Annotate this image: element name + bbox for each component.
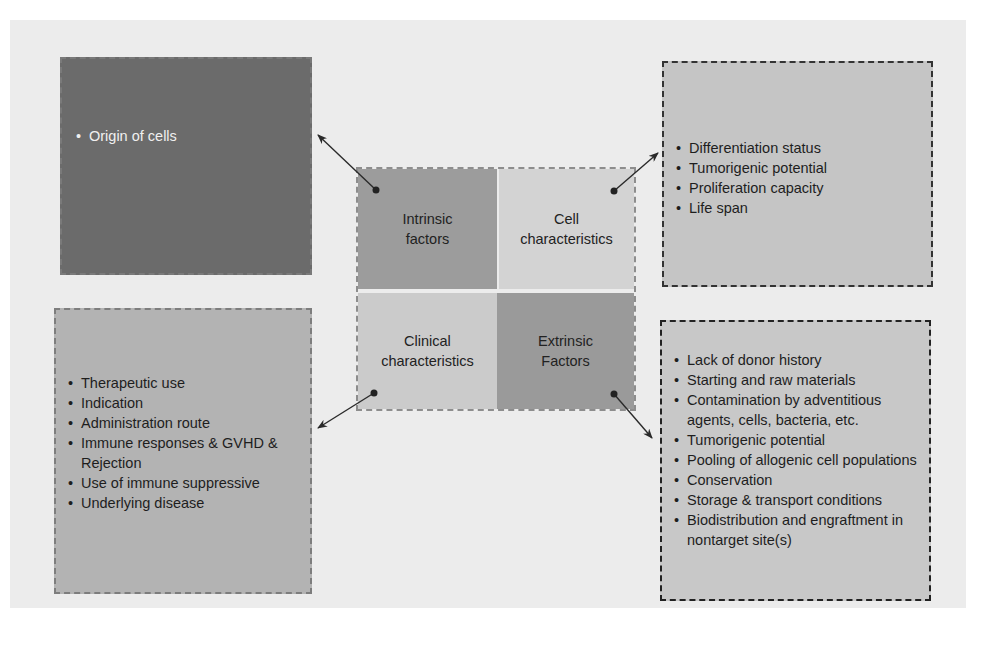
- list-item: Life span: [676, 198, 827, 218]
- list-item: Use of immune suppressive: [68, 473, 300, 493]
- clinical-characteristics-list: Therapeutic use Indication Administratio…: [68, 373, 300, 513]
- extrinsic-factors-detail-box: Lack of donor history Starting and raw m…: [660, 320, 931, 601]
- list-item: Contamination by adventitious agents, ce…: [674, 390, 919, 430]
- cell-characteristics-detail-box: Differentiation status Tumorigenic poten…: [662, 61, 933, 287]
- list-item: Conservation: [674, 470, 919, 490]
- list-item: Administration route: [68, 413, 300, 433]
- quadrant-label: Extrinsic: [538, 333, 593, 349]
- list-item: Immune responses & GVHD & Rejection: [68, 433, 300, 473]
- list-item: Storage & transport conditions: [674, 490, 919, 510]
- list-item: Differentiation status: [676, 138, 827, 158]
- extrinsic-factors-quadrant: ExtrinsicFactors: [497, 293, 634, 409]
- list-item: Proliferation capacity: [676, 178, 827, 198]
- quadrant-label: Cell: [554, 211, 579, 227]
- central-factor-grid: Intrinsicfactors Cellcharacteristics Cli…: [356, 167, 636, 411]
- list-item: Tumorigenic potential: [674, 430, 919, 450]
- intrinsic-factors-detail-box: Origin of cells: [60, 57, 312, 275]
- quadrant-label: characteristics: [381, 353, 474, 369]
- list-item: Starting and raw materials: [674, 370, 919, 390]
- quadrant-label: Factors: [541, 353, 589, 369]
- intrinsic-factors-list: Origin of cells: [76, 126, 177, 146]
- extrinsic-factors-list: Lack of donor history Starting and raw m…: [674, 350, 919, 550]
- quadrant-label: Intrinsic: [403, 211, 453, 227]
- intrinsic-factors-quadrant: Intrinsicfactors: [358, 169, 497, 289]
- list-item: Therapeutic use: [68, 373, 300, 393]
- list-item: Pooling of allogenic cell populations: [674, 450, 919, 470]
- clinical-characteristics-quadrant: Clinicalcharacteristics: [358, 293, 497, 409]
- list-item: Biodistribution and engraftment in nonta…: [674, 510, 919, 550]
- list-item: Indication: [68, 393, 300, 413]
- list-item: Origin of cells: [76, 126, 177, 146]
- list-item: Underlying disease: [68, 493, 300, 513]
- list-item: Lack of donor history: [674, 350, 919, 370]
- clinical-characteristics-detail-box: Therapeutic use Indication Administratio…: [54, 308, 312, 594]
- cell-characteristics-list: Differentiation status Tumorigenic poten…: [676, 138, 827, 218]
- cell-characteristics-quadrant: Cellcharacteristics: [499, 169, 634, 289]
- quadrant-label: factors: [406, 231, 450, 247]
- quadrant-label: characteristics: [520, 231, 613, 247]
- quadrant-label: Clinical: [404, 333, 451, 349]
- list-item: Tumorigenic potential: [676, 158, 827, 178]
